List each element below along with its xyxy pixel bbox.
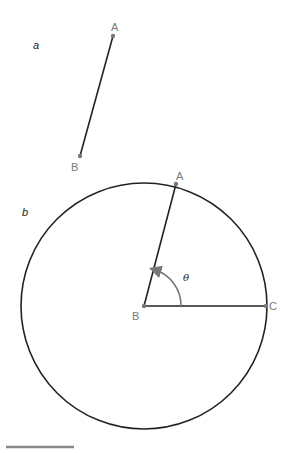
panel-b-label: b: [22, 206, 28, 218]
center-point-b: [142, 304, 146, 308]
panel-a-label: a: [33, 39, 39, 51]
point-a-label-b: A: [176, 170, 184, 182]
point-a: [111, 34, 115, 38]
point-c-on-circle: [264, 304, 268, 308]
geometry-diagram: a A B b A B C θ: [0, 0, 300, 453]
angle-arc-arrow: [155, 270, 181, 306]
point-b-label: B: [71, 161, 78, 173]
point-b-label-b: B: [132, 310, 139, 322]
segment-ab: [80, 36, 113, 156]
point-a-on-circle: [174, 182, 178, 186]
point-c-label: C: [269, 300, 277, 312]
radius-ba: [144, 184, 176, 306]
angle-theta-label: θ: [183, 272, 189, 283]
point-a-label: A: [111, 21, 119, 33]
point-b: [78, 154, 82, 158]
